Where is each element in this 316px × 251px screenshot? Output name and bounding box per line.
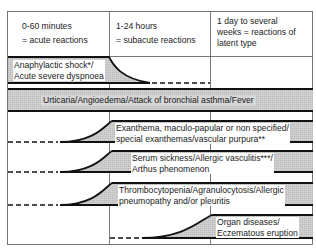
header-acute: 0-60 minutes = acute reactions [22,21,88,46]
label-urticaria: Urticaria/Angioedema/Attack of bronchial… [40,95,257,106]
header-subacute: 1-24 hours = subacute reactions [116,21,196,46]
label-exanthema: Exanthema, maculo-papular or non specifi… [115,123,290,144]
label-organ-diseases: Organ diseases/ Eczematous eruption [216,217,299,238]
label-anaphylactic-shock: Anaphylactic shock*/ Acute severe dyspno… [13,60,105,81]
label-serum-sickness: Serum sickness/Allergic vasculitis***/ A… [131,153,274,174]
header-latent: 1 day to several weeks = reactions of la… [217,16,296,49]
label-thrombocytopenia: Thrombocytopenia/Agranulocytosis/Allergi… [118,185,285,206]
